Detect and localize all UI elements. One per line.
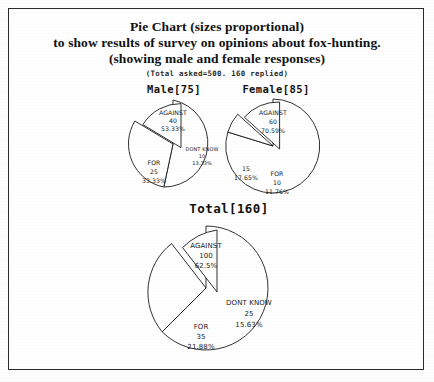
pie-label-total-for-name: FOR [194, 323, 209, 331]
pie-label-male-for-pct: 33.33% [142, 177, 166, 184]
pie-label-total-for-value: 35 [196, 333, 205, 341]
pie-label-total-against-pct: 62.5% [195, 262, 218, 270]
pie-label-male-for-name: FOR [147, 159, 161, 166]
pie-header-total: Total[160] [169, 201, 289, 216]
pie-label-female-for-value: 10 [273, 179, 281, 186]
title-line-3: (showing male and female responses) [9, 51, 425, 67]
pie-label-female-for-name: FOR [270, 170, 284, 177]
pie-label-female-against-pct: 70.59% [261, 127, 285, 134]
pie-label-total-for-pct: 21.88% [187, 343, 215, 351]
pie-label-male-dontknow-value: 10 [199, 153, 206, 159]
pie-label-male-for-value: 25 [150, 168, 158, 175]
pie-label-male-against-value: 40 [169, 117, 177, 124]
pie-label-male-against-name: AGAINST [159, 109, 187, 116]
pie-label-male-dontknow-pct: 13.33% [192, 160, 212, 166]
title-line-1: Pie Chart (sizes proportional) [9, 19, 425, 35]
pie-label-female-mid-pct: 17.65% [234, 174, 258, 181]
pie-chart-male: AGAINST 40 53.33% FOR 25 33.33% DONT KNO… [121, 93, 231, 199]
pie-chart-total: AGAINST 100 62.5% FOR 35 21.88% DONT KNO… [139, 221, 289, 366]
pie-chart-female: AGAINST 60 70.59% 15 17.65% FOR 10 11.76… [221, 93, 336, 203]
page-title: Pie Chart (sizes proportional) to show r… [9, 19, 425, 67]
pie-label-male-against-pct: 53.33% [161, 125, 185, 132]
pie-label-total-dontknow-value: 25 [244, 310, 253, 318]
pie-label-female-for-pct: 11.76% [265, 188, 289, 195]
pie-label-total-dontknow-name: DONT KNOW [226, 299, 272, 307]
pie-label-female-mid-value: 15 [242, 165, 250, 172]
pie-label-total-dontknow-pct: 15.63% [235, 321, 263, 329]
page-root: Pie Chart (sizes proportional) to show r… [0, 0, 434, 382]
chart-frame-border: Pie Chart (sizes proportional) to show r… [8, 8, 424, 370]
title-line-2: to show results of survey on opinions ab… [9, 35, 425, 51]
survey-subtitle: (Total asked=500. 160 replied) [9, 69, 425, 78]
pie-label-female-against-name: AGAINST [259, 109, 287, 116]
pie-label-male-dontknow-name: DONT KNOW [186, 146, 219, 152]
pie-label-female-against-value: 60 [269, 118, 277, 125]
pie-label-total-against-name: AGAINST [190, 242, 222, 250]
pie-label-total-against-value: 100 [199, 252, 213, 260]
